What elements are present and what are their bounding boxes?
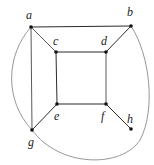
- vertex-d: [104, 50, 108, 54]
- vertex-f: [104, 102, 108, 106]
- vertex-b: [129, 24, 133, 28]
- label-c: c: [53, 34, 59, 48]
- vertex-h: [129, 127, 133, 131]
- label-b: b: [127, 5, 133, 19]
- label-h: h: [127, 112, 133, 126]
- vertex-g: [30, 128, 34, 132]
- label-e: e: [54, 109, 60, 123]
- label-d: d: [101, 34, 108, 48]
- graph-diagram: a b c d e f g h: [0, 0, 154, 165]
- edge-a-g: [31, 27, 32, 130]
- edge-c-e: [56, 52, 57, 104]
- vertex-a: [29, 25, 33, 29]
- vertex-c: [54, 50, 58, 54]
- vertex-e: [55, 102, 59, 106]
- label-g: g: [28, 135, 34, 149]
- edge-a-g-curved: [12, 27, 32, 130]
- label-a: a: [26, 8, 32, 22]
- edge-a-b: [31, 26, 131, 27]
- label-f: f: [101, 109, 106, 123]
- edge-b-d: [106, 26, 131, 52]
